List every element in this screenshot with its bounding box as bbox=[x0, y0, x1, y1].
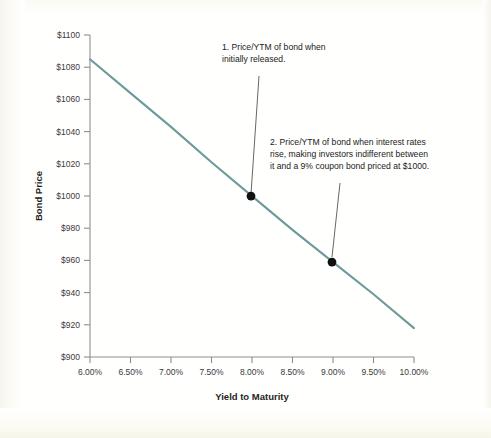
x-tick-label-850: 8.50% bbox=[280, 367, 305, 377]
x-tick-label-1000pct: 10.00% bbox=[400, 367, 429, 377]
annotation-1-line-1: 1. Price/YTM of bond when bbox=[222, 42, 326, 52]
bond-price-ytm-chart-figure: $1100 $1080 $1060 $1040 $1020 $1000 $980… bbox=[0, 0, 491, 438]
annotation-2-line-3: it and a 9% coupon bond priced at $1000. bbox=[270, 161, 429, 171]
y-tick-label-900: $900 bbox=[61, 352, 80, 362]
x-tick-label-800: 8.00% bbox=[240, 367, 265, 377]
y-tick-label-980: $980 bbox=[61, 223, 80, 233]
x-tick-label-650: 6.50% bbox=[118, 367, 143, 377]
y-tick-label-960: $960 bbox=[61, 255, 80, 265]
x-tick-label-750: 7.50% bbox=[199, 367, 224, 377]
y-tick-label-1000: $1000 bbox=[56, 191, 80, 201]
annotation-1-line-2: initially released. bbox=[222, 54, 286, 64]
chart-plot-area: $1100 $1080 $1060 $1040 $1020 $1000 $980… bbox=[0, 0, 491, 438]
x-tick-label-950: 9.50% bbox=[361, 367, 386, 377]
data-point-marker-repriced[interactable] bbox=[328, 258, 337, 267]
x-axis-title: Yield to Maturity bbox=[215, 391, 289, 402]
y-tick-label-940: $940 bbox=[61, 288, 80, 298]
annotation-2-line-2: rise, making investors indifferent betwe… bbox=[270, 149, 428, 159]
y-axis-title: Bond Price bbox=[33, 171, 44, 221]
x-tick-label-600: 6.00% bbox=[78, 367, 103, 377]
y-tick-label-1080: $1080 bbox=[56, 62, 80, 72]
y-tick-label-1020: $1020 bbox=[56, 159, 80, 169]
x-axis-ticks bbox=[90, 357, 414, 363]
y-tick-label-1040: $1040 bbox=[56, 127, 80, 137]
y-axis-ticks bbox=[84, 35, 90, 357]
annotation-2-line-1: 2. Price/YTM of bond when interest rates bbox=[270, 137, 426, 147]
y-tick-label-920: $920 bbox=[61, 320, 80, 330]
data-point-marker-initial[interactable] bbox=[247, 192, 256, 201]
x-tick-label-700: 7.00% bbox=[159, 367, 184, 377]
annotation-1-leader-line bbox=[251, 76, 259, 194]
x-tick-label-900pct: 9.00% bbox=[321, 367, 346, 377]
annotation-2: 2. Price/YTM of bond when interest rates… bbox=[270, 137, 429, 171]
annotation-2-leader-line bbox=[332, 183, 340, 257]
annotation-1: 1. Price/YTM of bond when initially rele… bbox=[222, 42, 326, 64]
y-tick-label-1060: $1060 bbox=[56, 94, 80, 104]
y-tick-label-1100: $1100 bbox=[57, 30, 80, 40]
